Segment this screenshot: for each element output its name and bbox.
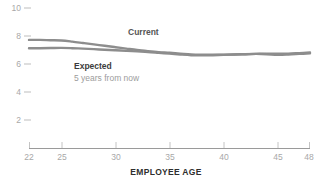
series-group	[29, 40, 310, 55]
x-tick-label-48: 48	[304, 152, 314, 162]
x-axis-ticks	[30, 142, 310, 148]
chart-figure: 10 8 6 4 2 22 25 30 35 40 45 48	[0, 0, 321, 182]
x-tick-label-22: 22	[24, 152, 34, 162]
y-axis-ticks	[24, 8, 31, 120]
y-tick-label-8: 8	[16, 31, 21, 41]
x-axis-tick-labels: 22 25 30 35 40 45 48	[24, 152, 314, 162]
y-tick-label-10: 10	[12, 3, 22, 13]
series-label-current: Current	[128, 27, 159, 37]
x-tick-label-25: 25	[57, 152, 67, 162]
x-axis-title: EMPLOYEE AGE	[130, 167, 201, 177]
x-tick-label-40: 40	[219, 152, 229, 162]
y-tick-label-6: 6	[16, 59, 21, 69]
line-chart-canvas: 10 8 6 4 2 22 25 30 35 40 45 48	[0, 0, 321, 182]
y-axis-tick-labels: 10 8 6 4 2	[12, 3, 22, 125]
x-tick-label-45: 45	[273, 152, 283, 162]
series-label-expected: Expected	[74, 61, 112, 71]
y-tick-label-4: 4	[16, 87, 21, 97]
x-tick-label-30: 30	[111, 152, 121, 162]
series-sublabel-expected: 5 years from now	[74, 73, 140, 83]
y-tick-label-2: 2	[16, 115, 21, 125]
x-tick-label-35: 35	[165, 152, 175, 162]
